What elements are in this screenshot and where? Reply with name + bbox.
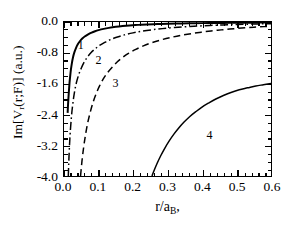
x-axis-minor-tick [196, 22, 197, 26]
x-axis-minor-tick [112, 22, 113, 26]
y-axis-tick [64, 84, 70, 85]
y-axis-minor-tick [64, 60, 68, 61]
y-axis-minor-tick [268, 37, 272, 38]
y-tick-label: -3.2 [37, 139, 58, 153]
y-axis-tick [265, 84, 271, 85]
curve-label-3: 3 [112, 77, 118, 89]
y-axis-minor-tick [64, 138, 68, 139]
plot-area [63, 21, 272, 177]
x-tick-label: 0.1 [89, 180, 106, 194]
x-axis-minor-tick [182, 22, 183, 26]
y-axis-minor-tick [268, 107, 272, 108]
x-axis-minor-tick [112, 173, 113, 177]
x-tick-label: 0.5 [229, 180, 246, 194]
x-axis-minor-tick [175, 22, 176, 26]
y-axis-tick [64, 115, 70, 116]
y-axis-minor-tick [64, 68, 68, 69]
y-axis-title: Im[Vr(r;F)] (a.u.) [10, 12, 27, 172]
x-axis-minor-tick [224, 22, 225, 26]
y-axis-minor-tick [64, 45, 68, 46]
x-tick-label: 0.0 [55, 180, 72, 194]
x-axis-minor-tick [77, 22, 78, 26]
x-axis-minor-tick [70, 22, 71, 26]
y-axis-minor-tick [268, 29, 272, 30]
y-axis-tick [64, 146, 70, 147]
x-axis-minor-tick [231, 22, 232, 26]
x-axis-tick [133, 170, 134, 176]
y-axis-minor-tick [64, 123, 68, 124]
y-axis-minor-tick [64, 162, 68, 163]
y-tick-label: -1.6 [37, 76, 58, 90]
figure-root: 0.0-0.8-1.6-2.4-3.2-4.0 Im[Vr(r;F)] (a.u… [0, 0, 289, 229]
x-axis-minor-tick [182, 173, 183, 177]
y-axis-tick [64, 53, 70, 54]
curve-label-2: 2 [95, 54, 101, 66]
x-axis-minor-tick [105, 22, 106, 26]
y-axis-minor-tick [268, 154, 272, 155]
x-axis-tick [168, 170, 169, 176]
y-axis-minor-tick [64, 154, 68, 155]
x-axis-tick [63, 22, 64, 28]
y-axis-tick [265, 146, 271, 147]
x-axis-minor-tick [196, 173, 197, 177]
y-axis-minor-tick [268, 131, 272, 132]
y-axis-minor-tick [64, 107, 68, 108]
x-axis-minor-tick [126, 22, 127, 26]
y-axis-minor-tick [64, 76, 68, 77]
x-axis-minor-tick [161, 22, 162, 26]
x-axis-minor-tick [119, 22, 120, 26]
x-axis-minor-tick [265, 22, 266, 26]
x-axis-minor-tick [140, 22, 141, 26]
x-axis-minor-tick [252, 22, 253, 26]
x-axis-tick [237, 22, 238, 28]
x-axis-minor-tick [231, 173, 232, 177]
x-axis-minor-tick [258, 173, 259, 177]
x-axis-minor-tick [147, 22, 148, 26]
y-axis-minor-tick [268, 138, 272, 139]
x-tick-label: 0.6 [264, 180, 281, 194]
y-axis-minor-tick [268, 76, 272, 77]
x-axis-minor-tick [210, 22, 211, 26]
curve-3 [81, 26, 271, 176]
y-tick-label: 0.0 [41, 14, 58, 28]
x-axis-tick-labels: 0.00.10.20.30.40.50.6 [0, 180, 289, 200]
x-axis-minor-tick [161, 173, 162, 177]
x-axis-minor-tick [245, 22, 246, 26]
y-axis-minor-tick [64, 29, 68, 30]
x-axis-minor-tick [217, 173, 218, 177]
x-axis-tick [133, 22, 134, 28]
x-axis-minor-tick [252, 173, 253, 177]
y-axis-minor-tick [64, 99, 68, 100]
x-axis-tick [63, 170, 64, 176]
x-axis-minor-tick [140, 173, 141, 177]
curves-layer [64, 22, 271, 176]
x-axis-tick [168, 22, 169, 28]
x-axis-minor-tick [258, 22, 259, 26]
y-axis-minor-tick [268, 170, 272, 171]
curve-1 [68, 23, 271, 113]
x-axis-title: r/aB, [63, 199, 272, 216]
y-tick-label: -2.4 [37, 108, 58, 122]
x-axis-minor-tick [154, 22, 155, 26]
y-axis-minor-tick [64, 37, 68, 38]
x-tick-label: 0.4 [194, 180, 211, 194]
x-axis-tick [98, 170, 99, 176]
x-axis-tick [203, 170, 204, 176]
y-axis-minor-tick [64, 92, 68, 93]
x-axis-minor-tick [189, 173, 190, 177]
x-axis-minor-tick [70, 173, 71, 177]
y-axis-minor-tick [268, 99, 272, 100]
y-axis-tick [64, 21, 70, 22]
x-axis-minor-tick [217, 22, 218, 26]
x-axis-minor-tick [77, 173, 78, 177]
x-axis-minor-tick [91, 173, 92, 177]
x-axis-minor-tick [126, 173, 127, 177]
y-axis-minor-tick [268, 68, 272, 69]
x-axis-minor-tick [265, 173, 266, 177]
y-axis-tick [265, 115, 271, 116]
y-axis-minor-tick [268, 123, 272, 124]
x-axis-minor-tick [91, 22, 92, 26]
y-tick-label: -0.8 [37, 45, 58, 59]
x-tick-label: 0.3 [159, 180, 176, 194]
x-axis-minor-tick [189, 22, 190, 26]
